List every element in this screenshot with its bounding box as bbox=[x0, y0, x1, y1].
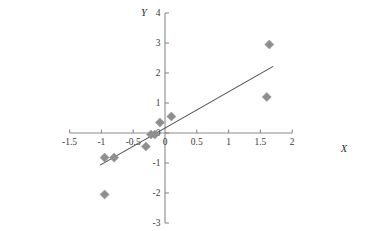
x-tick-label: 1.5 bbox=[254, 137, 266, 147]
y-axis-label: Y bbox=[141, 7, 148, 18]
x-tick-label: -1.5 bbox=[62, 137, 77, 147]
data-point-marker bbox=[141, 142, 150, 151]
y-tick-label: -3 bbox=[153, 218, 161, 228]
regression-line bbox=[100, 66, 273, 165]
data-point-marker bbox=[167, 112, 176, 121]
x-tick-label: 0.5 bbox=[191, 137, 203, 147]
x-tick-label: 1 bbox=[226, 137, 231, 147]
x-tick-label: -0.5 bbox=[126, 137, 141, 147]
x-axis-ticks: -1.5-1-0.500.511.52 bbox=[62, 130, 295, 147]
y-tick-label: 2 bbox=[156, 68, 161, 78]
data-point-marker bbox=[100, 190, 109, 199]
data-point-marker bbox=[155, 118, 164, 127]
y-tick-label: 1 bbox=[156, 98, 161, 108]
x-tick-label: 0 bbox=[163, 137, 168, 147]
data-points bbox=[100, 40, 274, 199]
x-tick-label: -1 bbox=[97, 137, 105, 147]
data-point-marker bbox=[262, 92, 271, 101]
trend-line bbox=[100, 66, 273, 165]
plot-canvas: -1.5-1-0.500.511.52 -3-2-101234 X Y bbox=[0, 0, 371, 231]
y-tick-label: -2 bbox=[153, 188, 161, 198]
y-tick-label: -1 bbox=[153, 158, 161, 168]
data-point-marker bbox=[110, 153, 119, 162]
y-axis-ticks: -3-2-101234 bbox=[153, 8, 169, 228]
x-axis-label: X bbox=[340, 143, 348, 154]
y-tick-label: 3 bbox=[156, 38, 161, 48]
y-tick-label: 4 bbox=[156, 8, 161, 18]
x-tick-label: 2 bbox=[290, 137, 295, 147]
scatter-plot-figure: -1.5-1-0.500.511.52 -3-2-101234 X Y bbox=[0, 0, 371, 231]
data-point-marker bbox=[265, 40, 274, 49]
